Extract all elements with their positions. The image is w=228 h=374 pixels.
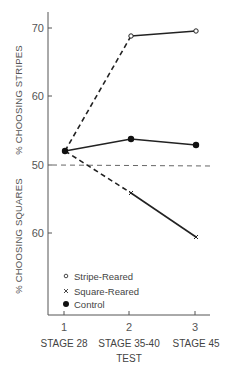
y-tick-label-60-upper: 60 <box>32 90 44 102</box>
y-tick-label-70: 70 <box>32 22 44 34</box>
x-axis-title: TEST <box>116 353 142 364</box>
legend-label-stripe-reared: Stripe-Reared <box>74 271 133 282</box>
filled-circle-marker <box>193 142 199 148</box>
y-tick-label-60-lower: 60 <box>32 227 44 239</box>
filled-circle-marker <box>62 148 68 154</box>
legend-label-square-reared: Square-Reared <box>74 286 139 297</box>
x-tick-label-2: 2 <box>126 321 132 333</box>
x-tick-label-1: 1 <box>61 321 67 333</box>
x-tick-label-3: 3 <box>192 321 198 333</box>
open-circle-icon <box>64 274 68 278</box>
x-category-label-3: STAGE 45 <box>172 338 219 349</box>
series-square-reared <box>65 151 198 239</box>
y-axis-title-upper: % CHOOSING STRIPES <box>13 45 24 155</box>
series-stripe-reared <box>65 29 198 151</box>
y-axis-title-lower: % CHOOSING SQUARES <box>13 178 24 294</box>
x-category-label-1: STAGE 28 <box>40 338 87 349</box>
legend-label-control: Control <box>74 299 105 310</box>
open-circle-marker <box>194 29 198 33</box>
series-control <box>62 136 199 154</box>
legend: Stripe-Reared Square-Reared Control <box>63 271 139 310</box>
open-circle-marker <box>129 34 133 38</box>
filled-circle-icon <box>63 301 69 307</box>
reference-line-50 <box>52 165 212 166</box>
y-tick-label-50: 50 <box>32 159 44 171</box>
x-icon <box>64 289 68 293</box>
filled-circle-marker <box>128 136 134 142</box>
x-category-label-2: STAGE 35-40 <box>98 338 160 349</box>
line-chart: 70 60 50 60 % CHOOSING STRIPES % CHOOSIN… <box>0 0 228 374</box>
